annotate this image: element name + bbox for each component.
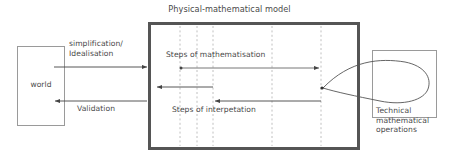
- loop-junction-dot: [320, 86, 323, 89]
- simplification-edge-label: simplification/ Idealisation: [69, 39, 149, 58]
- diagram-title: Physical-mathematical model: [0, 5, 459, 15]
- diagram-canvas: Physical-mathematical model world simpli…: [0, 0, 459, 162]
- technical-box-label: Technical mathematical operations: [376, 106, 446, 135]
- interpretation-edge-label: Steps of interpetation: [172, 105, 256, 115]
- model-box: [150, 24, 359, 149]
- validation-edge-label: Validation: [77, 104, 115, 114]
- mathematisation-arrow-start-dot: [180, 67, 183, 70]
- diagram-graphics: [0, 0, 459, 162]
- world-box-label: world: [17, 80, 65, 90]
- mathematisation-edge-label: Steps of mathematisation: [166, 50, 265, 60]
